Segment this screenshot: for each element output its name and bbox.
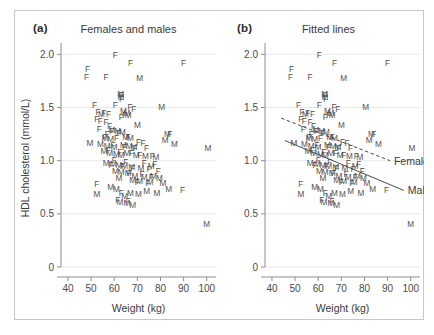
data-point-marker-m: M — [93, 190, 100, 199]
x-tick-label: 100 — [198, 283, 215, 294]
y-tick-label: 1.0 — [244, 155, 258, 166]
x-tick-label: 90 — [382, 283, 394, 294]
x-tick-label: 60 — [109, 283, 121, 294]
data-point-marker-m: M — [158, 103, 165, 112]
data-point-marker-m: M — [171, 140, 178, 149]
data-point-marker-f: F — [181, 59, 186, 68]
data-point-marker-m: M — [133, 151, 140, 160]
data-point-marker-f: F — [384, 186, 389, 195]
x-axis-title: Weight (kg) — [112, 302, 166, 314]
y-tick-label: 2.0 — [244, 49, 258, 60]
data-point-marker-m: M — [113, 185, 120, 194]
x-tick-label: 40 — [266, 283, 278, 294]
data-point-marker-f: F — [97, 125, 102, 134]
figure-frame: (a) Females and males 00.51.01.52.040506… — [14, 10, 424, 320]
y-tick-label: 1.5 — [244, 102, 258, 113]
x-tick-label: 70 — [336, 283, 348, 294]
data-point-marker-m: M — [125, 111, 132, 120]
data-point-marker-m: M — [339, 190, 346, 199]
data-point-marker-f: F — [104, 73, 109, 82]
data-point-marker-f: F — [128, 59, 133, 68]
data-point-marker-m: M — [358, 189, 365, 198]
x-tick-label: 80 — [359, 283, 371, 294]
data-point-marker-m: M — [302, 110, 309, 119]
data-point-marker-m: M — [142, 152, 149, 161]
data-point-marker-m: M — [162, 136, 169, 145]
y-tick-label: 0 — [252, 262, 258, 273]
y-tick-label: 0.5 — [244, 208, 258, 219]
panel-a-plot: 00.51.01.52.0405060708090100Weight (kg)H… — [15, 11, 220, 319]
y-tick-label: 0.5 — [40, 208, 54, 219]
data-point-marker-m: M — [136, 177, 143, 186]
y-tick-label: 2.0 — [40, 49, 54, 60]
data-point-marker-m: M — [115, 174, 122, 183]
data-point-marker-m: M — [143, 187, 150, 196]
data-point-marker-f: F — [317, 101, 322, 110]
panel-a: (a) Females and males 00.51.01.52.040506… — [15, 11, 220, 319]
data-point-marker-m: M — [328, 149, 335, 158]
data-point-marker-m: M — [98, 110, 105, 119]
data-point-marker-f: F — [385, 59, 390, 68]
data-point-marker-m: M — [148, 162, 155, 171]
data-point-marker-m: M — [321, 198, 328, 207]
data-point-marker-m: M — [203, 220, 210, 229]
data-point-marker-m: M — [337, 151, 344, 160]
data-point-marker-m: M — [87, 139, 94, 148]
data-point-marker-m: M — [333, 201, 340, 210]
data-point-marker-f: F — [131, 105, 136, 114]
data-point-marker-f: F — [301, 125, 306, 134]
data-point-marker-m: M — [135, 190, 142, 199]
data-point-marker-f: F — [113, 51, 118, 60]
x-axis-title: Weight (kg) — [316, 302, 370, 314]
data-point-marker-m: M — [369, 185, 376, 194]
y-tick-label: 0 — [48, 262, 54, 273]
data-point-marker-f: F — [84, 73, 89, 82]
x-tick-label: 70 — [132, 283, 144, 294]
data-point-marker-m: M — [322, 93, 329, 102]
data-point-marker-m: M — [351, 178, 358, 187]
data-point-marker-m: M — [136, 74, 143, 83]
data-point-marker-f: F — [288, 73, 293, 82]
data-point-marker-f: F — [332, 59, 337, 68]
x-tick-label: 50 — [290, 283, 302, 294]
data-point-marker-f: F — [317, 51, 322, 60]
data-point-marker-m: M — [338, 121, 345, 130]
y-tick-label: 1.5 — [40, 102, 54, 113]
data-point-marker-m: M — [407, 220, 414, 229]
data-point-marker-f: F — [308, 73, 313, 82]
data-point-marker-f: F — [94, 180, 99, 189]
fitted-line-label-male: Male — [408, 184, 424, 196]
x-tick-label: 40 — [62, 283, 74, 294]
y-axis-title: HDL cholesterol (mmol/L) — [19, 99, 31, 218]
data-point-marker-m: M — [297, 190, 304, 199]
data-point-marker-m: M — [204, 144, 211, 153]
data-point-marker-m: M — [340, 177, 347, 186]
data-point-marker-m: M — [165, 185, 172, 194]
data-point-marker-m: M — [408, 144, 415, 153]
data-point-marker-m: M — [346, 152, 353, 161]
data-point-marker-f: F — [335, 105, 340, 114]
data-point-marker-m: M — [147, 178, 154, 187]
x-tick-label: 90 — [178, 283, 190, 294]
data-point-marker-m: M — [317, 185, 324, 194]
data-point-marker-m: M — [319, 174, 326, 183]
data-point-marker-m: M — [347, 187, 354, 196]
data-point-marker-m: M — [362, 103, 369, 112]
data-point-marker-f: F — [180, 186, 185, 195]
x-tick-label: 60 — [313, 283, 325, 294]
data-point-marker-m: M — [118, 93, 125, 102]
data-point-marker-m: M — [134, 121, 141, 130]
fitted-line-label-female: Female — [394, 155, 424, 167]
data-point-marker-m: M — [375, 140, 382, 149]
data-point-marker-m: M — [124, 149, 131, 158]
x-tick-label: 80 — [155, 283, 167, 294]
panel-b: (b) Fitted lines 00.51.01.52.04050607080… — [219, 11, 424, 319]
data-point-marker-m: M — [340, 74, 347, 83]
data-point-marker-m: M — [154, 189, 161, 198]
x-tick-label: 100 — [402, 283, 419, 294]
x-tick-label: 50 — [86, 283, 98, 294]
data-point-marker-f: F — [113, 101, 118, 110]
data-point-marker-f: F — [298, 180, 303, 189]
data-point-marker-m: M — [117, 198, 124, 207]
panel-b-plot: 00.51.01.52.0405060708090100Weight (kg)F… — [219, 11, 424, 319]
